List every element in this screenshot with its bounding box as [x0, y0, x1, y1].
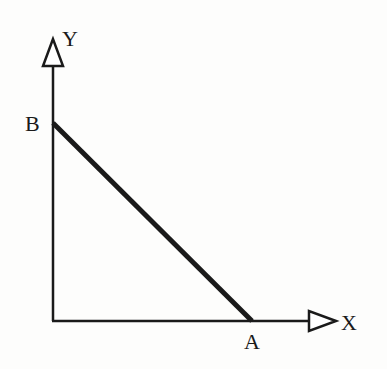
segment-ba	[53, 123, 252, 321]
y-axis-label: Y	[62, 26, 78, 51]
diagram-canvas: Y X B A	[0, 0, 387, 369]
x-axis-arrowhead-icon	[309, 311, 336, 331]
point-b-label: B	[25, 111, 40, 136]
point-a-label: A	[244, 329, 260, 354]
x-axis-label: X	[341, 310, 357, 335]
y-axis-arrowhead-icon	[43, 39, 63, 66]
